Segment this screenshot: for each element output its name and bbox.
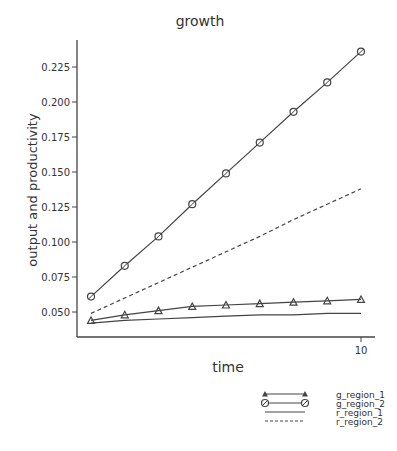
series-r-region-1	[91, 313, 361, 323]
legend: g_region_1g_region_2r_region_1r_region_2	[262, 390, 385, 427]
chart-title: growth	[176, 13, 225, 29]
plot-area	[88, 48, 365, 323]
y-tick-label: 0.050	[41, 307, 70, 318]
legend-label: r_region_2	[336, 417, 383, 427]
y-tick-label: 0.225	[41, 62, 70, 73]
y-tick-label: 0.175	[41, 132, 70, 143]
legend-item: r_region_2	[265, 417, 383, 427]
chart: growth 0.0500.0750.1000.1250.1500.1750.2…	[0, 0, 397, 451]
y-tick-label: 0.125	[41, 202, 70, 213]
y-tick-label: 0.200	[41, 97, 70, 108]
series-g-region-2	[88, 48, 365, 300]
x-tick-label: 10	[355, 345, 368, 356]
y-tick-label: 0.075	[41, 272, 70, 283]
series-r-region-2	[91, 189, 361, 314]
y-axis-label: output and productivity	[25, 113, 40, 267]
y-tick-label: 0.100	[41, 237, 70, 248]
axes: 0.0500.0750.1000.1250.1500.1750.2000.225…	[41, 40, 375, 356]
series-g-region-1	[88, 296, 365, 324]
y-tick-label: 0.150	[41, 167, 70, 178]
x-axis-label: time	[212, 359, 244, 375]
